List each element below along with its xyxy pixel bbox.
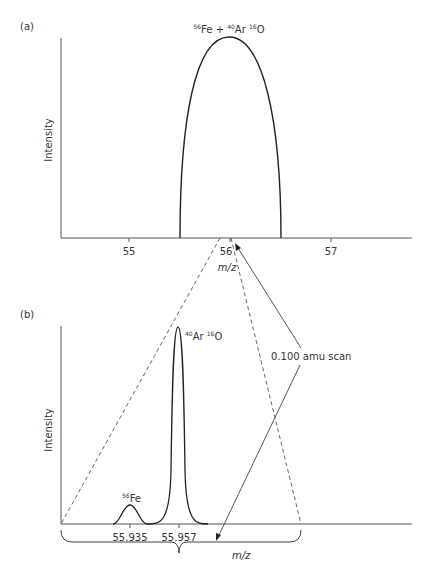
scan-label: 0.100 amu scan: [271, 351, 351, 362]
panel-a-peak-label: 56Fe + 40Ar 16O: [193, 23, 264, 35]
peak-aro: [147, 327, 208, 524]
peak-aro-label: 40Ar 16O: [185, 330, 222, 342]
peak-fe: [113, 505, 147, 524]
tick-label-55935: 55.935: [113, 532, 148, 543]
tick-label-55: 55: [123, 246, 136, 257]
panel-a-peak: [180, 37, 281, 238]
scan-arrow-upper: [238, 248, 301, 348]
tick-label-57: 57: [325, 246, 338, 257]
panel-a-ylabel: Intensity: [43, 118, 54, 162]
panel-b-xlabel: m/z: [232, 550, 251, 561]
panel-a-xlabel: m/z: [218, 262, 237, 273]
zoom-line-left: [61, 238, 220, 524]
tick-label-56: 56: [220, 246, 233, 257]
arrow-head-up-icon: [235, 243, 241, 251]
scan-arrow-lower: [219, 365, 300, 535]
panel-a-label: (a): [20, 21, 34, 32]
zoom-line-right: [231, 238, 301, 524]
peak-fe-label: 56Fe: [122, 492, 141, 504]
tick-label-55957: 55.957: [162, 532, 197, 543]
panel-b-ylabel: Intensity: [43, 408, 54, 452]
arrow-head-down-icon: [216, 533, 221, 541]
panel-b-label: (b): [20, 309, 34, 320]
mass-spectrum-diagram: (a) 55 56 57 m/z Intensity 56Fe + 40Ar 1…: [0, 0, 435, 580]
